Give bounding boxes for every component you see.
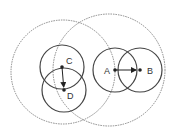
label-b: B xyxy=(147,66,153,76)
point-c xyxy=(60,65,64,69)
label-a: A xyxy=(104,66,110,76)
large-dashed-circle-left xyxy=(11,20,115,124)
point-d xyxy=(62,88,66,92)
label-c: C xyxy=(66,56,73,66)
arrow-c-to-d xyxy=(62,67,64,87)
point-a xyxy=(113,68,117,72)
label-d: D xyxy=(67,91,74,101)
circles-diagram: C D A B xyxy=(0,0,172,133)
point-b xyxy=(138,68,142,72)
